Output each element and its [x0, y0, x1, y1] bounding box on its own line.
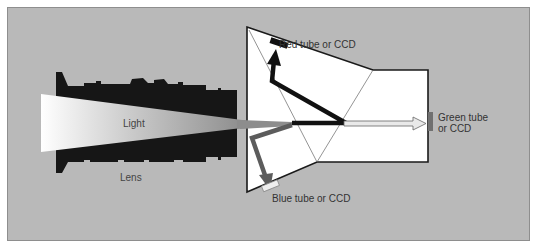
lens-label: Lens [120, 172, 142, 183]
green-sensor [428, 112, 433, 131]
light-label: Light [123, 118, 145, 129]
blue-sensor-label: Blue tube or CCD [272, 193, 350, 204]
prism [247, 27, 428, 192]
green-sensor-label-line1: Green tube [438, 112, 488, 123]
green-sensor-label-line2: or CCD [438, 123, 471, 134]
red-sensor-label: Red tube or CCD [279, 39, 356, 50]
